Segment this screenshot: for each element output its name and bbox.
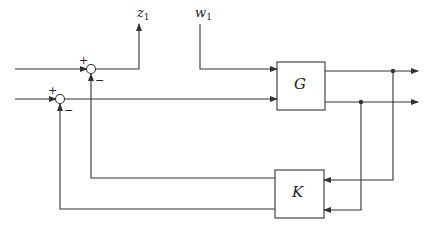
sum2-plus-sign: + [48, 85, 57, 96]
sum1-minus-sign: − [95, 75, 104, 86]
sum1-plus-sign: + [79, 55, 88, 66]
z1-label: z1 [137, 6, 150, 22]
block-g-label: G [294, 77, 306, 92]
block-k-label: K [292, 185, 303, 200]
block-diagram: G K z1 w1 + − + − [0, 0, 431, 230]
branch-point-2 [359, 100, 363, 104]
branch-point-1 [391, 69, 395, 73]
feedback-wire-2 [324, 102, 361, 210]
sum2-minus-sign: − [64, 105, 73, 116]
w1-label: w1 [195, 6, 212, 22]
feedback-wire-1 [324, 71, 393, 180]
z1-output-wire [96, 24, 139, 69]
k-output-wire-2 [60, 104, 275, 209]
w1-input-wire [200, 24, 277, 69]
k-output-wire-1 [91, 74, 275, 178]
